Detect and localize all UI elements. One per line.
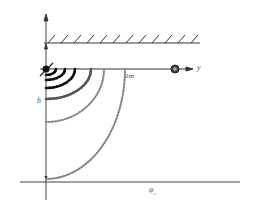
arrow-right-icon	[186, 67, 193, 71]
arrow-up-icon	[44, 14, 48, 21]
height-label: h	[37, 97, 41, 105]
y-axis-label: y	[197, 64, 201, 72]
y-axis	[40, 67, 193, 71]
vertical-axis	[44, 14, 48, 200]
ceiling-hatched-boundary	[44, 35, 200, 43]
small-arrow-up-icon	[45, 44, 48, 49]
wavefront-curve	[46, 69, 104, 122]
distance-label: 2m	[125, 73, 134, 80]
wavefront-curves	[45, 68, 126, 180]
phi-s-label: φs	[149, 186, 155, 196]
